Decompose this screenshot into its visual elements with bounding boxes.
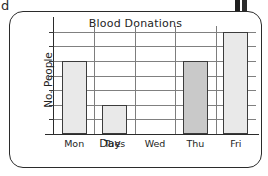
plot-area: No. People 102030 MonTuesWedThuFri xyxy=(54,26,256,134)
y-axis-tick xyxy=(49,90,54,91)
x-axis-title: Day xyxy=(99,137,121,150)
category-separator xyxy=(175,26,176,134)
x-axis-tick-label: Fri xyxy=(230,138,241,149)
category-separator xyxy=(216,26,217,134)
bar-mon xyxy=(62,61,87,134)
bar-fri xyxy=(223,32,248,134)
category-separator xyxy=(94,26,95,134)
y-axis-tick xyxy=(49,61,54,62)
bar-thu xyxy=(183,61,208,134)
x-axis-line xyxy=(45,134,259,135)
x-axis-tick-label: Wed xyxy=(145,138,166,149)
bar-chart: Blood Donations No. People 102030 MonTue… xyxy=(9,11,262,168)
y-axis-tick xyxy=(49,46,54,47)
y-axis-tick xyxy=(49,32,54,33)
x-axis-tick-label: Mon xyxy=(64,138,84,149)
worksheet-page: d Blood Donations No. People 102030 MonT… xyxy=(0,0,268,176)
y-axis-tick xyxy=(49,76,54,77)
x-axis-tick-label: Thu xyxy=(186,138,204,149)
y-axis-tick xyxy=(49,119,54,120)
y-axis-tick xyxy=(49,105,54,106)
category-separator xyxy=(135,26,136,134)
bar-tues xyxy=(102,105,127,134)
